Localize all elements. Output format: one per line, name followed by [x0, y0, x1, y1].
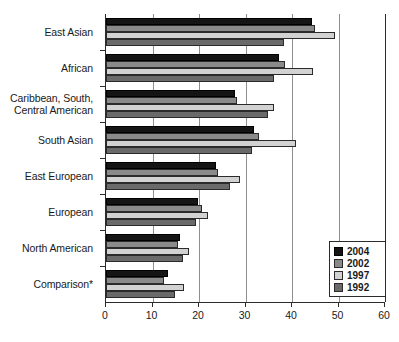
bar	[106, 97, 237, 104]
bar	[106, 241, 178, 248]
bar-chart: East AsianAfricanCaribbean, South, Centr…	[0, 0, 399, 342]
legend-label: 1992	[347, 282, 369, 293]
category-label: European	[0, 194, 99, 230]
chart-legend: 2004200219971992	[329, 241, 386, 297]
bar-group	[106, 86, 385, 122]
y-axis-tick	[100, 86, 105, 87]
x-axis-tick	[198, 302, 199, 307]
y-axis-tick	[100, 266, 105, 267]
legend-label: 1997	[347, 270, 369, 281]
bar	[106, 248, 189, 255]
bar	[106, 61, 285, 68]
x-axis-tick-label: 50	[332, 309, 344, 322]
bar	[106, 205, 202, 212]
bar	[106, 198, 198, 205]
bar	[106, 277, 164, 284]
x-axis-tick	[245, 302, 246, 307]
bar	[106, 18, 312, 25]
category-label: South Asian	[0, 122, 99, 158]
bar	[106, 169, 218, 176]
bar	[106, 75, 274, 82]
bar	[106, 90, 235, 97]
bar-group	[106, 122, 385, 158]
category-label: African	[0, 50, 99, 86]
y-axis-tick	[100, 194, 105, 195]
category-label: East European	[0, 158, 99, 194]
bar	[106, 219, 196, 226]
bar	[106, 32, 335, 39]
legend-swatch-icon	[334, 271, 343, 280]
bar	[106, 183, 230, 190]
bar	[106, 284, 184, 291]
legend-item: 2004	[334, 245, 381, 257]
bar	[106, 140, 296, 147]
y-axis-tick	[100, 50, 105, 51]
legend-swatch-icon	[334, 283, 343, 292]
bar	[106, 104, 274, 111]
bar-group	[106, 158, 385, 194]
bar	[106, 255, 183, 262]
y-axis-tick	[100, 122, 105, 123]
category-label: East Asian	[0, 14, 99, 50]
bar	[106, 39, 284, 46]
bar	[106, 212, 208, 219]
x-axis-tick-label: 0	[102, 309, 108, 322]
bar-group	[106, 194, 385, 230]
x-axis-tick-label: 30	[239, 309, 251, 322]
x-axis-tick-label: 20	[192, 309, 204, 322]
legend-label: 2002	[347, 258, 369, 269]
bar	[106, 126, 254, 133]
x-axis-tick	[338, 302, 339, 307]
bar	[106, 54, 279, 61]
y-axis-tick	[100, 158, 105, 159]
bar	[106, 162, 216, 169]
bar-group	[106, 14, 385, 50]
legend-label: 2004	[347, 246, 369, 257]
x-axis-tick-labels: 0102030405060	[0, 309, 399, 327]
legend-item: 1997	[334, 269, 381, 281]
x-axis-tick	[105, 302, 106, 307]
bar	[106, 234, 180, 241]
bar	[106, 133, 259, 140]
category-label: Caribbean, South, Central American	[0, 86, 99, 122]
x-axis-tick	[291, 302, 292, 307]
x-axis-tick	[152, 302, 153, 307]
legend-item: 2002	[334, 257, 381, 269]
legend-swatch-icon	[334, 259, 343, 268]
bar	[106, 147, 252, 154]
legend-swatch-icon	[334, 247, 343, 256]
bar	[106, 111, 268, 118]
category-label: Comparison*	[0, 266, 99, 302]
bar	[106, 68, 313, 75]
y-axis-tick	[100, 230, 105, 231]
category-axis-labels: East AsianAfricanCaribbean, South, Centr…	[0, 14, 99, 302]
x-axis-tick-label: 60	[378, 309, 390, 322]
x-axis-tick-label: 40	[285, 309, 297, 322]
bar-group	[106, 50, 385, 86]
x-axis-tick-label: 10	[146, 309, 158, 322]
bar	[106, 291, 175, 298]
category-label: North American	[0, 230, 99, 266]
bar	[106, 270, 168, 277]
bar	[106, 25, 315, 32]
legend-item: 1992	[334, 281, 381, 293]
x-axis-tick	[384, 302, 385, 307]
bar	[106, 176, 240, 183]
